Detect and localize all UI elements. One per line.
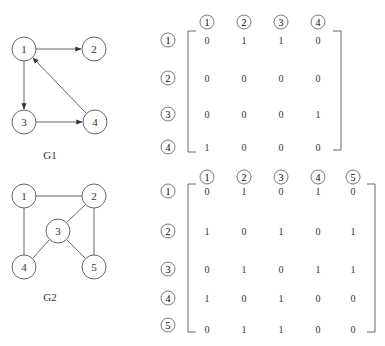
matrix-cell: 1 — [242, 35, 247, 46]
matrix-cell: 0 — [242, 293, 247, 304]
matrix-cell: 0 — [205, 109, 210, 120]
matrix-g2-col-label-5: 5 — [346, 170, 360, 184]
svg-text:5: 5 — [166, 320, 171, 331]
matrix-cell: 0 — [205, 324, 210, 335]
matrix-cell: 1 — [279, 35, 284, 46]
matrix-g2-row-label-3: 3 — [161, 262, 175, 276]
matrix-cell: 1 — [316, 264, 321, 275]
matrix-g2-col-label-4: 4 — [311, 170, 325, 184]
matrix-cell: 0 — [205, 264, 210, 275]
matrix-g1-left-bracket — [188, 31, 196, 152]
matrix-cell: 1 — [205, 293, 210, 304]
matrix-cell: 0 — [316, 324, 321, 335]
matrix-cell: 1 — [351, 226, 356, 237]
svg-text:4: 4 — [316, 17, 321, 28]
matrix-g2: 1 2 3 4 5 1 2 3 4 5 0 1 0 1 0 1 0 1 0 1 … — [161, 170, 375, 335]
matrix-g1-row-label-1: 1 — [161, 33, 175, 47]
g2-label: G2 — [43, 291, 56, 303]
g2-node-2: 2 — [82, 184, 106, 208]
matrix-g1-col-label-1: 1 — [200, 15, 214, 29]
svg-text:2: 2 — [242, 17, 247, 28]
matrix-g1-row-3: 0 0 0 1 — [205, 109, 321, 120]
matrix-g2-col-label-1: 1 — [200, 170, 214, 184]
g2-node-1: 1 — [12, 184, 36, 208]
g2-node-4: 4 — [12, 255, 36, 279]
matrix-g1-row-label-4: 4 — [161, 140, 175, 154]
svg-text:4: 4 — [92, 116, 98, 128]
matrix-cell: 1 — [242, 264, 247, 275]
g1-edges — [24, 49, 86, 122]
g2-edge-2-3 — [67, 205, 85, 222]
matrix-g2-row-2: 1 0 1 0 1 — [205, 226, 356, 237]
matrix-g1-row-4: 1 0 0 0 — [205, 142, 321, 153]
matrix-cell: 0 — [205, 35, 210, 46]
matrix-g1-row-1: 0 1 1 0 — [205, 35, 321, 46]
matrix-cell: 0 — [205, 73, 210, 84]
svg-text:1: 1 — [21, 43, 27, 55]
matrix-cell: 1 — [316, 186, 321, 197]
matrix-cell: 1 — [242, 324, 247, 335]
matrix-cell: 0 — [242, 73, 247, 84]
svg-text:2: 2 — [166, 226, 171, 237]
matrix-g1-right-bracket — [333, 31, 341, 150]
matrix-cell: 0 — [316, 73, 321, 84]
svg-text:4: 4 — [21, 261, 27, 273]
svg-text:3: 3 — [166, 264, 171, 275]
matrix-cell: 1 — [279, 226, 284, 237]
svg-text:2: 2 — [91, 190, 97, 202]
matrix-cell: 0 — [316, 293, 321, 304]
matrix-g2-row-label-5: 5 — [161, 318, 175, 332]
matrix-cell: 0 — [279, 264, 284, 275]
matrix-cell: 0 — [351, 324, 356, 335]
svg-text:4: 4 — [316, 172, 321, 183]
svg-text:3: 3 — [55, 225, 61, 237]
matrix-g1: 1 2 3 4 1 2 3 4 0 1 1 0 0 0 0 0 0 0 0 1 … — [161, 15, 341, 154]
matrix-g2-row-label-2: 2 — [161, 224, 175, 238]
matrix-cell: 0 — [279, 186, 284, 197]
svg-text:1: 1 — [21, 190, 27, 202]
matrix-g1-row-2: 0 0 0 0 — [205, 73, 321, 84]
matrix-cell: 1 — [205, 142, 210, 153]
matrix-g2-row-3: 0 1 0 1 1 — [205, 264, 356, 275]
svg-text:1: 1 — [205, 172, 210, 183]
matrix-g1-col-label-2: 2 — [237, 15, 251, 29]
matrix-cell: 0 — [242, 142, 247, 153]
matrix-g2-row-5: 0 1 1 0 0 — [205, 324, 356, 335]
matrix-g1-row-label-3: 3 — [161, 107, 175, 121]
matrix-cell: 0 — [351, 186, 356, 197]
matrix-g2-row-label-4: 4 — [161, 291, 175, 305]
matrix-cell: 0 — [279, 142, 284, 153]
matrix-cell: 1 — [316, 109, 321, 120]
matrix-cell: 1 — [279, 324, 284, 335]
matrix-g2-col-label-3: 3 — [274, 170, 288, 184]
g1-edge-4-1 — [33, 58, 86, 113]
g1-node-4: 4 — [83, 110, 107, 134]
matrix-cell: 0 — [242, 109, 247, 120]
g2-node-5: 5 — [82, 255, 106, 279]
matrix-g2-row-4: 1 0 1 0 0 — [205, 293, 356, 304]
svg-text:4: 4 — [166, 142, 171, 153]
matrix-cell: 0 — [205, 186, 210, 197]
svg-text:1: 1 — [205, 17, 210, 28]
svg-text:2: 2 — [91, 43, 97, 55]
matrix-g1-col-label-4: 4 — [311, 15, 325, 29]
svg-text:5: 5 — [91, 261, 97, 273]
matrix-cell: 0 — [316, 142, 321, 153]
matrix-g2-row-label-1: 1 — [161, 184, 175, 198]
svg-text:3: 3 — [166, 109, 171, 120]
matrix-cell: 0 — [279, 73, 284, 84]
g1-node-1: 1 — [12, 37, 36, 61]
svg-text:2: 2 — [242, 172, 247, 183]
svg-text:3: 3 — [279, 172, 284, 183]
matrix-g2-left-bracket — [188, 184, 196, 332]
g1-node-2: 2 — [82, 37, 106, 61]
svg-text:3: 3 — [21, 116, 27, 128]
graph-diagram-canvas: 1 2 3 4 G1 1 2 3 4 5 G2 1 2 3 4 1 2 3 4 … — [0, 0, 385, 346]
svg-text:2: 2 — [166, 73, 171, 84]
matrix-cell: 0 — [316, 35, 321, 46]
matrix-cell: 1 — [279, 293, 284, 304]
matrix-g1-col-label-3: 3 — [274, 15, 288, 29]
g1-node-3: 3 — [12, 110, 36, 134]
matrix-g2-col-label-2: 2 — [237, 170, 251, 184]
svg-text:1: 1 — [166, 35, 171, 46]
